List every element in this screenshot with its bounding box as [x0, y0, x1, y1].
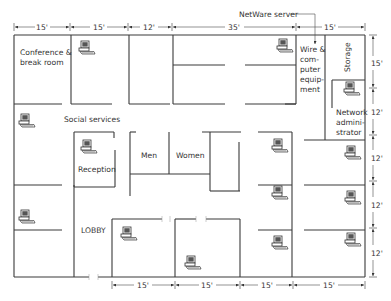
dim-right-3: 12' — [371, 154, 383, 163]
computer-workstation-icon — [121, 227, 137, 240]
dim-bottom-1: 15' — [137, 281, 149, 290]
netware-server-label: NetWare server — [239, 10, 299, 19]
dim-top-4: 35' — [228, 23, 240, 32]
dim-top-3: 12' — [143, 23, 155, 32]
dim-bottom-4: 15' — [323, 281, 335, 290]
room-label-wire-closet: Wire & com- puter equip- ment — [300, 45, 328, 94]
computer-workstation-icon — [345, 146, 361, 159]
computer-workstation-icon — [272, 236, 288, 249]
dim-bottom-2: 15' — [201, 281, 213, 290]
dim-right-4: 12' — [371, 201, 383, 210]
computer-workstation-icon — [185, 256, 201, 269]
room-label-reception: Reception — [78, 165, 116, 174]
computer-workstation-icon — [344, 82, 360, 95]
computer-workstation-icon — [345, 233, 361, 246]
computer-workstation-icon — [81, 140, 97, 153]
dim-right-1: 15' — [371, 59, 383, 68]
computer-workstation-icon — [345, 191, 361, 204]
room-label-social-services: Social services — [64, 115, 120, 124]
room-label-women: Women — [176, 151, 205, 160]
dim-right-5: 12' — [371, 249, 383, 258]
top-dimensions: 15' 15' 12' 35' 15' — [14, 23, 365, 32]
right-dimensions: 15' 12' 12' 12' 12' — [369, 35, 383, 277]
dim-right-2: 12' — [371, 108, 383, 117]
room-labels: Conference & break room Social services … — [20, 42, 370, 235]
room-label-lobby: LOBBY — [81, 226, 106, 235]
computer-workstation-icon — [272, 186, 288, 199]
computer-workstation-icon — [277, 39, 293, 52]
room-label-men: Men — [141, 151, 157, 160]
computer-workstation-icon — [19, 210, 35, 223]
dim-top-2: 15' — [93, 23, 105, 32]
floor-plan: 15' 15' 12' 35' 15' 15' 12' 12' 12' 12' — [0, 0, 391, 301]
dim-top-1: 15' — [36, 23, 48, 32]
computer-workstation-icon — [19, 114, 35, 127]
dim-top-5: 15' — [324, 23, 336, 32]
dim-bottom-3: 15' — [261, 281, 273, 290]
computer-workstation-icon — [79, 41, 95, 54]
computer-workstation-icon — [272, 139, 288, 152]
bottom-dimensions: 15' 15' 15' 15' — [112, 281, 365, 290]
room-label-storage: Storage — [343, 42, 352, 72]
room-label-conference: Conference & break room — [20, 48, 74, 67]
